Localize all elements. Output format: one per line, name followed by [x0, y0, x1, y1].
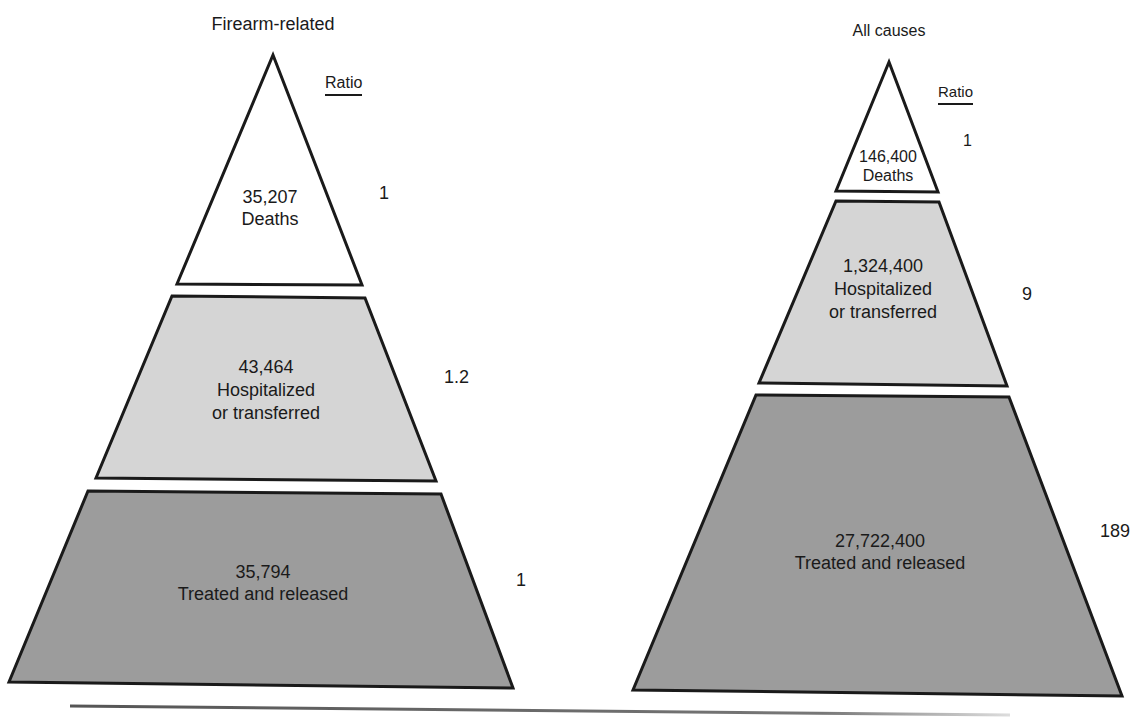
allcauses-hospitalized-ratio: 9 [1022, 283, 1032, 305]
pyramid-diagram [0, 0, 1144, 717]
firearm-hospitalized-ratio: 1.2 [444, 366, 469, 388]
allcauses-deaths-label: Deaths [863, 166, 914, 185]
firearm-deaths-value: 35,207 [242, 186, 297, 208]
allcauses-deaths-value: 146,400 [859, 147, 917, 166]
allcauses-treated-label: Treated and released [795, 552, 965, 574]
allcauses-treated-ratio: 189 [1100, 520, 1130, 542]
firearm-hospitalized-value: 43,464 [238, 356, 293, 378]
firearm-ratio-header: Ratio [325, 74, 362, 96]
allcauses-title: All causes [853, 21, 926, 40]
firearm-treated-value: 35,794 [235, 561, 290, 583]
allcauses-treated-value: 27,722,400 [835, 530, 925, 552]
allcauses-hospitalized-value: 1,324,400 [843, 255, 923, 277]
firearm-hospitalized-label-2: or transferred [212, 402, 320, 424]
allcauses-ratio-header: Ratio [938, 83, 973, 105]
allcauses-deaths-ratio: 1 [963, 131, 972, 150]
allcauses-hospitalized-label-2: or transferred [829, 301, 937, 323]
firearm-hospitalized-label-1: Hospitalized [217, 379, 315, 401]
allcauses-hospitalized-label-1: Hospitalized [834, 278, 932, 300]
firearm-deaths-label: Deaths [241, 208, 298, 230]
baseline-rule [70, 706, 1010, 715]
firearm-treated-ratio: 1 [516, 569, 526, 591]
firearm-title: Firearm-related [211, 13, 334, 35]
firearm-treated-label: Treated and released [178, 583, 348, 605]
firearm-deaths-ratio: 1 [379, 182, 389, 204]
